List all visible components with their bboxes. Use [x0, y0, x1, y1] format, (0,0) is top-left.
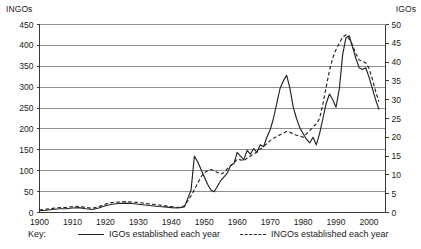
svg-text:150: 150	[19, 145, 33, 155]
svg-text:5: 5	[392, 189, 397, 199]
svg-text:50: 50	[392, 20, 402, 30]
chart-figure: INGOs IGOs 05010015020025030035040045005…	[0, 0, 421, 249]
data-series	[40, 35, 379, 211]
svg-text:1900: 1900	[30, 217, 49, 227]
svg-text:15: 15	[392, 151, 402, 161]
svg-text:1960: 1960	[228, 217, 247, 227]
svg-text:1940: 1940	[162, 217, 181, 227]
svg-text:400: 400	[19, 40, 33, 50]
legend-item-ingos: INGOs established each year	[240, 229, 389, 239]
svg-text:0: 0	[392, 208, 397, 218]
plot-area: 0501001502002503003504004500510152025303…	[0, 0, 421, 249]
svg-text:30: 30	[392, 95, 402, 105]
svg-text:1990: 1990	[327, 217, 346, 227]
svg-text:1950: 1950	[195, 217, 214, 227]
svg-text:300: 300	[19, 82, 33, 92]
legend-label-igos: IGOs established each year	[109, 229, 220, 239]
svg-text:350: 350	[19, 61, 33, 71]
legend-label-ingos: INGOs established each year	[271, 229, 389, 239]
axis-lines	[40, 25, 386, 213]
svg-text:100: 100	[19, 166, 33, 176]
svg-text:10: 10	[392, 170, 402, 180]
svg-text:250: 250	[19, 103, 33, 113]
svg-text:2000: 2000	[360, 217, 379, 227]
svg-text:40: 40	[392, 57, 402, 67]
svg-text:20: 20	[392, 132, 402, 142]
svg-text:1930: 1930	[129, 217, 148, 227]
chart-legend: Key: IGOs established each year INGOs es…	[0, 227, 421, 245]
svg-text:1980: 1980	[294, 217, 313, 227]
legend-key-label: Key:	[28, 229, 46, 239]
axis-ticks	[37, 25, 389, 213]
svg-text:1970: 1970	[261, 217, 280, 227]
legend-swatch-solid-icon	[78, 234, 104, 235]
chart-canvas: 0501001502002503003504004500510152025303…	[0, 0, 421, 249]
svg-text:1920: 1920	[96, 217, 115, 227]
svg-text:50: 50	[24, 187, 34, 197]
series-line-igos	[40, 36, 379, 211]
legend-item-igos: IGOs established each year	[78, 229, 220, 239]
svg-text:200: 200	[19, 124, 33, 134]
svg-text:35: 35	[392, 76, 402, 86]
svg-text:450: 450	[19, 20, 33, 30]
svg-text:1910: 1910	[63, 217, 82, 227]
svg-text:25: 25	[392, 114, 402, 124]
gridlines	[40, 25, 386, 192]
svg-text:45: 45	[392, 38, 402, 48]
legend-swatch-dashed-icon	[240, 234, 266, 235]
series-line-ingos	[40, 35, 379, 210]
